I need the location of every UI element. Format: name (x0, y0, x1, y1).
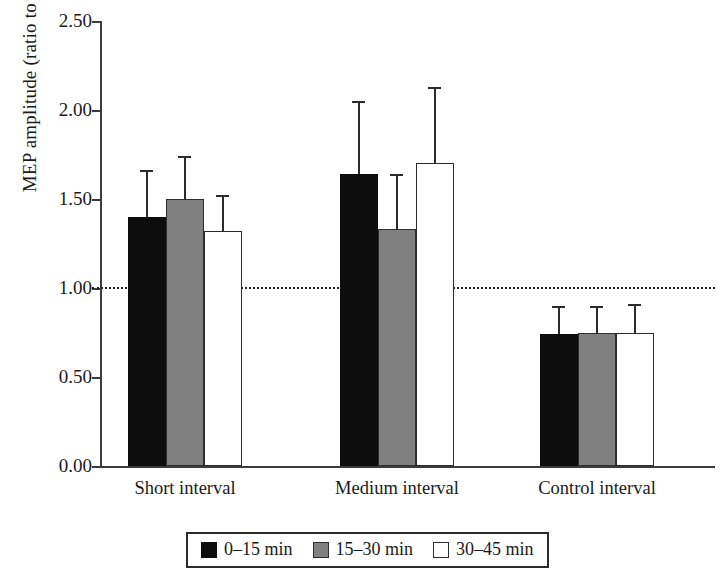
error-bar (184, 158, 186, 199)
error-bar-cap (352, 101, 365, 103)
legend-entry: 15–30 min (313, 539, 414, 560)
y-axis-tick-label: 0.50 (32, 366, 92, 388)
y-axis-tick-label: 2.50 (32, 10, 92, 32)
bar (128, 217, 166, 466)
error-bar-cap (628, 304, 641, 306)
legend-swatch-icon (313, 542, 329, 558)
plot-area (100, 21, 715, 466)
legend-label: 15–30 min (336, 539, 414, 560)
legend-swatch-icon (201, 542, 217, 558)
error-bar-cap (390, 174, 403, 176)
error-bar-cap (216, 195, 229, 197)
bar (204, 231, 242, 466)
x-axis-category-label: Short interval (95, 478, 275, 499)
y-axis-tick-label: 2.00 (32, 99, 92, 121)
error-bar-cap (428, 87, 441, 89)
error-bar-cap (178, 156, 191, 158)
legend-entry: 30–45 min (433, 539, 534, 560)
error-bar (358, 103, 360, 174)
error-bar (558, 308, 560, 335)
x-axis-line (100, 466, 715, 468)
legend-label: 30–45 min (456, 539, 534, 560)
y-axis-tick-label: 1.00 (32, 277, 92, 299)
x-axis-category-label: Medium interval (307, 478, 487, 499)
chart-legend: 0–15 min15–30 min30–45 min (186, 532, 549, 568)
bar (540, 334, 578, 466)
error-bar (434, 89, 436, 164)
bar (166, 199, 204, 466)
x-axis-category-label: Control interval (507, 478, 687, 499)
error-bar-cap (590, 306, 603, 308)
bar (378, 229, 416, 466)
legend-entry: 0–15 min (201, 539, 293, 560)
error-bar (146, 172, 148, 217)
y-axis-label: MEP amplitude (ratio to baseline) (10, 0, 50, 293)
y-axis-tick-label: 0.00 (32, 455, 92, 477)
mep-amplitude-bar-chart: MEP amplitude (ratio to baseline) 0.000.… (0, 0, 723, 585)
bar (416, 163, 454, 466)
error-bar (596, 308, 598, 333)
error-bar (396, 176, 398, 229)
legend-label: 0–15 min (224, 539, 293, 560)
error-bar (634, 306, 636, 333)
y-axis-tick-label: 1.50 (32, 188, 92, 210)
legend-swatch-icon (433, 542, 449, 558)
error-bar-cap (552, 306, 565, 308)
error-bar (222, 197, 224, 231)
bar (578, 333, 616, 467)
bar (616, 333, 654, 467)
error-bar-cap (140, 170, 153, 172)
bar (340, 174, 378, 466)
